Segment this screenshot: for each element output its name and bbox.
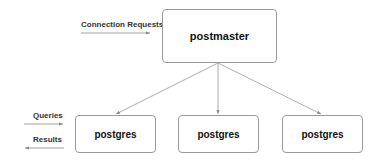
master-to-worker-1-arrow <box>116 63 218 114</box>
connection-requests-label: Connection Requests <box>81 20 163 29</box>
postgres-box-3: postgres <box>282 115 363 153</box>
master-to-worker-3-arrow <box>218 63 321 114</box>
results-label: Results <box>33 135 62 144</box>
postgres-box-1: postgres <box>75 115 156 153</box>
postgres-box-2: postgres <box>178 115 259 153</box>
queries-label: Queries <box>33 111 63 120</box>
postmaster-box: postmaster <box>162 9 277 63</box>
